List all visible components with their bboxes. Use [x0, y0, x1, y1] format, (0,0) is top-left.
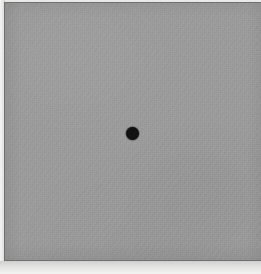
- gray-field: [5, 3, 261, 260]
- black-dot: [126, 127, 139, 140]
- screenshot-root: A photographic/printed plate: a large fl…: [0, 0, 261, 274]
